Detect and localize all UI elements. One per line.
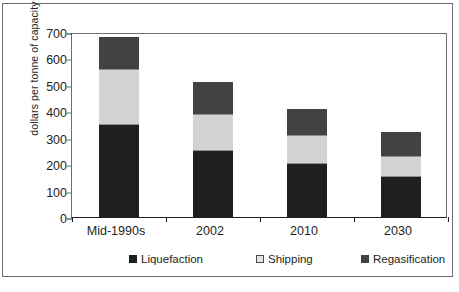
bar-segment-shipping xyxy=(287,135,327,164)
legend-label: Liquefaction xyxy=(141,253,203,265)
bar-segment-liquefaction xyxy=(193,151,233,217)
y-tick-mark xyxy=(67,166,72,167)
chart-legend: LiquefactionShippingRegasification xyxy=(71,253,447,269)
figure-frame: dollars per tonne of capacity 0100200300… xyxy=(2,3,453,277)
y-tick-label: 300 xyxy=(46,133,67,147)
x-tick-mark xyxy=(354,217,355,222)
y-tick-label: 0 xyxy=(60,212,67,226)
x-tick-label: Mid-1990s xyxy=(87,224,145,238)
y-tick-label: 700 xyxy=(46,27,67,41)
y-tick-mark xyxy=(67,192,72,193)
bar-stack xyxy=(193,82,233,217)
y-tick-mark xyxy=(67,113,72,114)
y-tick-label: 600 xyxy=(46,53,67,67)
y-tick-label: 100 xyxy=(46,186,67,200)
bar-segment-shipping xyxy=(99,69,139,125)
legend-swatch-icon xyxy=(256,255,264,263)
y-tick-label: 500 xyxy=(46,80,67,94)
y-axis-title: dollars per tonne of capacity xyxy=(28,0,46,161)
y-tick-mark xyxy=(67,139,72,140)
y-tick-mark xyxy=(67,60,72,61)
bar-segment-liquefaction xyxy=(381,177,421,217)
bar-segment-liquefaction xyxy=(99,125,139,218)
legend-item-regasification[interactable]: Regasification xyxy=(361,253,445,265)
bar-segment-liquefaction xyxy=(287,164,327,217)
bar-segment-shipping xyxy=(381,156,421,177)
y-tick-mark xyxy=(67,86,72,87)
x-tick-label: 2010 xyxy=(290,224,318,238)
legend-label: Regasification xyxy=(373,253,445,265)
y-tick-mark xyxy=(67,34,72,35)
x-tick-label: 2030 xyxy=(384,224,412,238)
bar-segment-shipping xyxy=(193,114,233,151)
figure: dollars per tonne of capacity 0100200300… xyxy=(0,0,459,292)
x-tick-label: 2002 xyxy=(196,224,224,238)
legend-label: Shipping xyxy=(268,253,313,265)
x-tick-mark xyxy=(448,217,449,222)
legend-item-shipping[interactable]: Shipping xyxy=(256,253,313,265)
bar-segment-regasification xyxy=(287,109,327,135)
y-tick-label: 200 xyxy=(46,159,67,173)
bar-segment-regasification xyxy=(99,37,139,69)
bar-stack xyxy=(381,132,421,217)
legend-swatch-icon xyxy=(361,255,369,263)
x-tick-mark xyxy=(72,217,73,222)
bar-segment-regasification xyxy=(381,132,421,156)
bar-stack xyxy=(99,37,139,217)
bar-segment-regasification xyxy=(193,82,233,114)
bar-stack xyxy=(287,109,327,217)
x-tick-mark xyxy=(260,217,261,222)
x-tick-mark xyxy=(166,217,167,222)
legend-swatch-icon xyxy=(129,255,137,263)
legend-item-liquefaction[interactable]: Liquefaction xyxy=(129,253,203,265)
plot-area: dollars per tonne of capacity 0100200300… xyxy=(71,33,447,218)
y-tick-label: 400 xyxy=(46,106,67,120)
